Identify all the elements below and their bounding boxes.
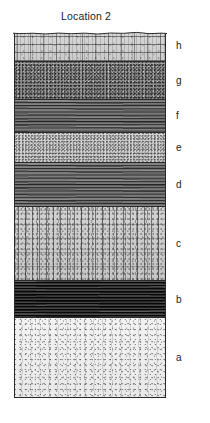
layer-label-e: e [176,143,198,153]
layer-b-texture [14,281,166,318]
layer-label-b: b [176,295,198,305]
layer-e [14,133,166,163]
layer-label-h: h [176,41,198,51]
layer-f [14,100,166,133]
layer-d-texture [14,163,166,207]
layer-c-texture [14,207,166,281]
figure-title: Location 2 [0,10,172,22]
stratigraphic-column-figure: Location 2 hgfedcba [0,0,210,423]
layer-label-c: c [176,239,198,249]
layer-g-texture [14,62,166,100]
layer-d [14,163,166,207]
layer-h-texture [14,31,166,62]
layer-c [14,207,166,281]
layer-e-texture [14,133,166,163]
layer-b [14,281,166,318]
layer-a-texture [14,318,166,398]
layer-f-texture [14,100,166,133]
layer-label-a: a [176,353,198,363]
stratigraphic-column [14,31,166,398]
layer-label-d: d [176,180,198,190]
layer-h [14,31,166,62]
layer-g [14,62,166,100]
layer-a [14,318,166,398]
layer-label-f: f [176,111,198,121]
layer-label-g: g [176,76,198,86]
